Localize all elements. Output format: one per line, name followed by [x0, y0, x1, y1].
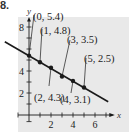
data-point	[38, 60, 42, 64]
data-point	[49, 66, 53, 70]
data-point	[71, 79, 75, 83]
data-point	[60, 74, 64, 78]
x-tick-label: 6	[93, 119, 98, 130]
y-axis-label: y	[26, 6, 31, 16]
point-label: (0, 5.4)	[33, 11, 64, 23]
point-label: (4, 3.1)	[60, 94, 91, 106]
x-tick-label: 2	[49, 119, 54, 130]
x-axis-label: x	[116, 110, 121, 120]
data-point	[27, 53, 31, 57]
x-tick-label: 4	[71, 119, 76, 130]
point-label: (5, 2.5)	[84, 53, 115, 65]
scatter-chart: yx 248246 (0, 5.4)(1, 4.8)(2, 4.3)(3, 3.…	[0, 0, 129, 132]
point-label: (3, 3.5)	[67, 34, 98, 46]
y-tick-label: 8	[19, 22, 24, 33]
data-point	[82, 85, 86, 89]
y-tick-label: 4	[19, 66, 24, 77]
y-tick-label: 2	[19, 88, 24, 99]
